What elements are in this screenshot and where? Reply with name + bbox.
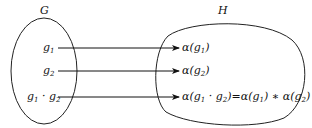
set-label-h: H: [217, 4, 228, 17]
set-h-blob: [156, 24, 305, 125]
set-label-g: G: [40, 4, 49, 17]
element-alpha-g1: α(g1): [182, 41, 210, 55]
element-g2: g2: [43, 64, 55, 78]
element-alpha-product: α(g1 · g2)=α(g1) ∗ α(g2): [182, 90, 310, 104]
element-g1: g1: [43, 41, 55, 55]
element-alpha-g2: α(g2): [182, 64, 210, 78]
homomorphism-diagram: G H g1 g2 g1 · g2 α(g1) α(g2) α(g1 · g2)…: [0, 0, 312, 128]
element-g1-g2: g1 · g2: [27, 90, 61, 104]
